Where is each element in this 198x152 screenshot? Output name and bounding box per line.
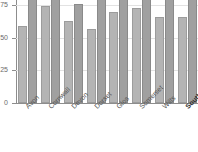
bar [178,17,187,103]
bar [165,0,174,103]
y-tick-label-25: 25 [0,66,8,73]
x-axis-category-labels: AvonCornwallDevonDorsetGlosSomersetWilts… [16,105,198,152]
bar [41,6,50,103]
bar-group [178,0,198,103]
bar [18,26,27,103]
bar [28,0,37,103]
plot-area [16,0,198,103]
bar-group [18,0,38,103]
bar-group [87,0,107,103]
bar [119,0,128,103]
y-tick-label-75: 75 [0,1,8,8]
bar-group [41,0,61,103]
bar [74,4,83,103]
bar [142,0,151,103]
bar [97,0,106,103]
y-tick-label-50: 50 [0,34,8,41]
bar [132,8,141,103]
bar [51,0,60,103]
bar-chart: 0255075 AvonCornwallDevonDorsetGlosSomer… [0,0,198,152]
bar-group [109,0,129,103]
y-tick-label-0: 0 [0,99,8,106]
bar-group [132,0,152,103]
bar [188,0,197,103]
bar [109,12,118,103]
bar [87,29,96,103]
y-tick-mark-0 [12,103,16,104]
